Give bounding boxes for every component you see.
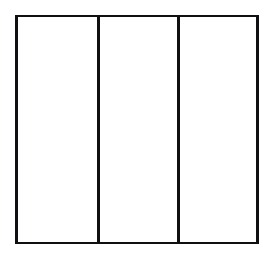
panel-left [18,17,97,242]
diagram-canvas [0,0,269,258]
panel-middle [100,17,177,242]
outer-rectangle-frame [15,15,259,244]
vertical-divider-2 [177,15,180,244]
panel-right [180,17,256,242]
vertical-divider-1 [97,15,100,244]
